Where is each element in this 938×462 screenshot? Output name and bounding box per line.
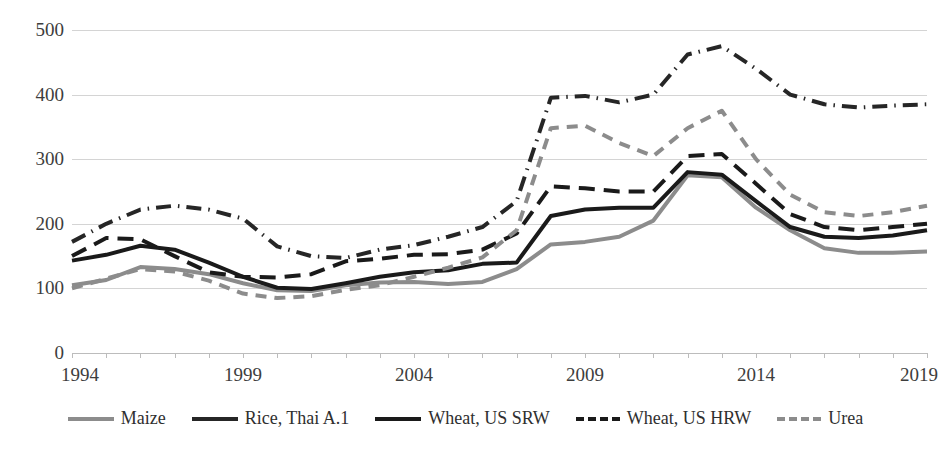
chart-legend: MaizeRice, Thai A.1Wheat, US SRWWheat, U…	[0, 408, 931, 429]
legend-swatch-icon	[576, 417, 620, 421]
legend-label: Urea	[828, 408, 863, 429]
legend-label: Rice, Thai A.1	[245, 408, 350, 429]
legend-swatch-icon	[375, 417, 421, 421]
legend-swatch-icon	[192, 417, 238, 421]
series-line-rice-thai-a-1	[72, 46, 927, 258]
legend-item-urea[interactable]: Urea	[777, 408, 863, 429]
legend-item-rice-thai-a-1[interactable]: Rice, Thai A.1	[192, 408, 350, 429]
legend-label: Maize	[121, 408, 166, 429]
legend-label: Wheat, US SRW	[428, 408, 550, 429]
series-line-maize	[72, 175, 927, 291]
legend-item-wheat-us-hrw[interactable]: Wheat, US HRW	[576, 408, 751, 429]
legend-swatch-icon	[777, 417, 821, 421]
legend-item-wheat-us-srw[interactable]: Wheat, US SRW	[375, 408, 550, 429]
legend-label: Wheat, US HRW	[627, 408, 751, 429]
legend-item-maize[interactable]: Maize	[68, 408, 166, 429]
legend-swatch-icon	[68, 417, 114, 421]
